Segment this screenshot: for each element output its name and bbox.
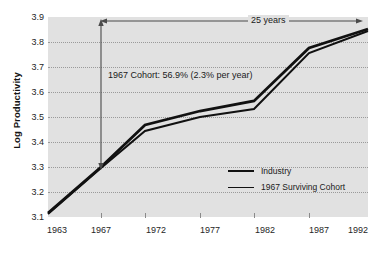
legend-line-swatch-icon	[228, 170, 254, 172]
legend-line-swatch-icon	[228, 187, 254, 188]
legend-item-label: Industry	[261, 167, 291, 176]
span-label-25-years: 25 years	[248, 15, 289, 26]
annotation-arrows	[98, 18, 363, 170]
legend-item-industry: Industry	[228, 163, 345, 179]
chart-legend: Industry 1967 Surviving Cohort	[228, 163, 345, 195]
legend-item-1967-surviving-cohort: 1967 Surviving Cohort	[228, 179, 345, 195]
legend-item-label: 1967 Surviving Cohort	[261, 183, 345, 192]
chart-svg-overlay	[0, 0, 375, 258]
horizontal-span-arrowhead-right	[356, 18, 363, 23]
chart-container: 3.9 3.8 3.7 3.6 3.5 3.4 3.3 3.2 3.1 1963…	[0, 0, 375, 258]
cohort-growth-annotation: 1967 Cohort: 56.9% (2.3% per year)	[108, 70, 253, 81]
